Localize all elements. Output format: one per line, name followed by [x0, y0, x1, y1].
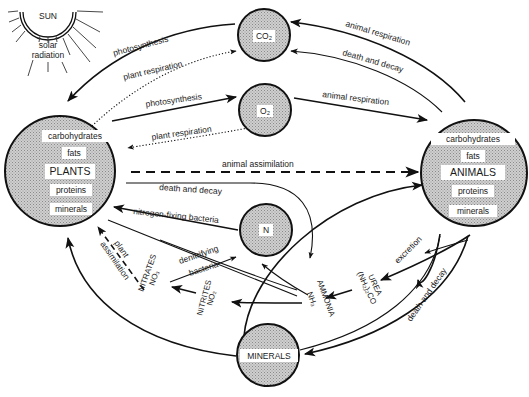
- node-n: N: [240, 204, 292, 256]
- solar-radiation-label-1: solar: [39, 40, 58, 50]
- arrow-photosynthesis-co2-plants: [68, 24, 235, 101]
- arrow-ammonia-to-n: [262, 264, 308, 295]
- n-label: N: [263, 225, 269, 235]
- label-ammonia: AMMONIA: [315, 279, 337, 319]
- animals-item-carbohydrates: carbohydrates: [446, 134, 500, 144]
- plants-item-proteins: proteins: [56, 185, 86, 195]
- label-ammonia-formula: NH₃: [305, 291, 319, 308]
- node-plants: carbohydrates fats PLANTS proteins miner…: [5, 116, 115, 226]
- label-death-decay-animals: death and decay: [404, 265, 449, 323]
- label-death-decay-plants: death and decay: [159, 182, 223, 196]
- animals-item-fats: fats: [466, 151, 480, 161]
- arrow-ammonia-to-nitrites: [232, 302, 302, 303]
- plants-item-minerals: minerals: [55, 204, 87, 214]
- label-plant-respiration-o2: plant respiration: [151, 124, 213, 142]
- animals-item-minerals: minerals: [457, 206, 489, 216]
- label-excretion: excretion: [392, 234, 424, 266]
- o2-label: O₂: [260, 106, 270, 116]
- plants-item-fats: fats: [67, 148, 81, 158]
- node-animals: carbohydrates fats ANIMALS proteins mine…: [421, 120, 527, 226]
- sun-label: SUN: [39, 11, 57, 21]
- node-o2: O₂: [239, 84, 291, 136]
- compound-labels: NITRATES NO₃ NITRITES NO₂ AMMONIA NH₃ UR…: [136, 253, 384, 318]
- minerals-label: MINERALS: [247, 351, 291, 361]
- label-photosynthesis-top: photosynthesis: [112, 34, 169, 58]
- label-plant-respiration-top: plant respiration: [122, 59, 183, 82]
- sun: SUN solar radiation: [8, 11, 103, 76]
- plants-title: PLANTS: [50, 165, 91, 177]
- label-photosynthesis-o2: photosynthesis: [145, 91, 203, 109]
- animals-title: ANIMALS: [450, 166, 496, 178]
- label-nitrogen-fixing: nitrogen-fixing bacteria: [133, 206, 220, 225]
- co2-label: CO₂: [256, 31, 272, 41]
- label-animal-assimilation: animal assimilation: [222, 159, 294, 169]
- plants-item-carbohydrates: carbohydrates: [48, 131, 102, 141]
- solar-radiation-label-2: radiation: [32, 50, 65, 60]
- nitrogen-carbon-cycle-diagram: SUN solar radiation: [0, 0, 529, 397]
- arrow-nitrites-to-nitrates: [172, 287, 196, 293]
- node-co2: CO₂: [238, 9, 290, 61]
- arrow-animals-decay-cross: [425, 240, 468, 253]
- node-minerals: MINERALS: [237, 324, 299, 386]
- animals-item-proteins: proteins: [458, 186, 488, 196]
